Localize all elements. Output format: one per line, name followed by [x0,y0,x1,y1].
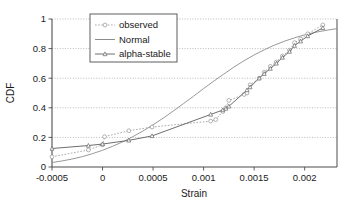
x-tick-label: 0.0015 [240,172,269,183]
x-tick-label: 0.0005 [139,172,168,183]
legend-label: alpha-stable [119,48,171,59]
y-tick-label: 0.2 [33,132,46,143]
y-tick-label: 0.8 [33,43,46,54]
data-point-marker [127,129,131,133]
x-tick-label: 0.002 [293,172,317,183]
cdf-chart-figure: -0.000500.00050.0010.00150.002 00.20.40.… [0,0,355,204]
x-tick-label: 0.001 [192,172,216,183]
y-axis-title: CDF [5,83,16,104]
y-tick-label: 1 [41,13,46,24]
y-tick-label: 0.4 [33,102,46,113]
data-point-marker [103,135,107,139]
y-tick-label: 0 [41,161,46,172]
x-tick-label: -0.0005 [36,172,68,183]
legend-label: Normal [119,34,150,45]
legend-marker-circle [103,23,107,27]
chart-legend: observedNormalalpha-stable [90,14,177,62]
x-axis-title: Strain [181,188,207,199]
data-point-marker [214,118,218,122]
data-point-marker [150,125,154,129]
data-point-marker [86,148,90,152]
x-tick-label: 0 [100,172,105,183]
data-point-marker [50,155,54,159]
chart-canvas: -0.000500.00050.0010.00150.002 00.20.40.… [0,0,355,204]
legend-label: observed [119,19,158,30]
data-point-marker [209,119,213,123]
y-tick-label: 0.6 [33,73,46,84]
data-point-marker [227,99,231,103]
